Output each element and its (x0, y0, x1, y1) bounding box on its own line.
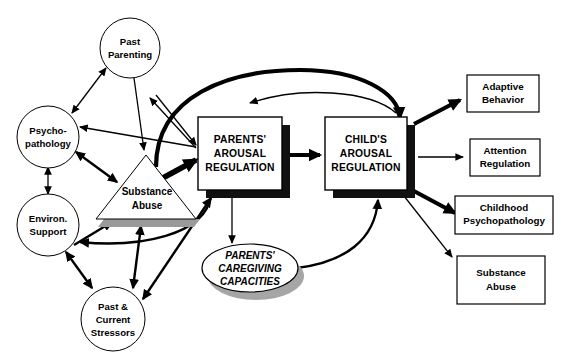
substance-abuse-outcome-label-line2: Abuse (486, 281, 516, 292)
childhood-psychopathology-label-line2: Psychopathology (463, 215, 545, 226)
adaptive-behavior-label-line1: Adaptive (482, 81, 524, 92)
parents-caregiving-capacities-label-line1: PARENTS' (225, 250, 275, 261)
parents-caregiving-capacities-label-line3: CAPACITIES (220, 276, 280, 287)
edge-stressors-substance-abuse (133, 226, 141, 288)
childhood-psychopathology-label-line1: Childhood (480, 202, 528, 213)
node-parents-arousal-regulation[interactable]: PARENTS' AROUSAL REGULATION (198, 117, 290, 198)
adaptive-behavior-label-line2: Behavior (482, 94, 524, 105)
parents-arousal-regulation-label-line3: REGULATION (205, 162, 274, 173)
node-childhood-psychopathology[interactable]: Childhood Psychopathology (455, 196, 553, 234)
edge-child-arousal-to-substance-abuse-outcome (404, 196, 452, 257)
environ-support-label-line1: Environ. (29, 213, 67, 224)
edge-child-arousal-to-childhood-psychopathology (412, 190, 455, 213)
node-psychopathology[interactable]: Psycho- pathology (17, 106, 79, 168)
node-parents-caregiving-capacities[interactable]: PARENTS' CAREGIVING CAPACITIES (202, 244, 304, 300)
edge-psychopathology-substance-abuse (76, 152, 117, 182)
environ-support-label-line2: Support (30, 226, 68, 237)
parents-arousal-regulation-label-line1: PARENTS' (214, 134, 267, 145)
edge-past-parenting-substance-abuse (134, 78, 144, 150)
node-past-parenting[interactable]: Past Parenting (100, 18, 160, 78)
node-past-current-stressors[interactable]: Past & Current Stressors (81, 287, 145, 351)
diagram-svg: Past Parenting Psycho- pathology Environ… (0, 0, 561, 359)
past-current-stressors-label-line2: Current (96, 314, 131, 325)
childs-arousal-regulation-label-line3: REGULATION (331, 162, 400, 173)
attention-regulation-label-line2: Regulation (480, 158, 531, 169)
parents-caregiving-capacities-label-line2: CAREGIVING (218, 263, 282, 274)
parents-arousal-regulation-label-line2: AROUSAL (214, 148, 266, 159)
past-current-stressors-label-line1: Past & (98, 301, 128, 312)
childs-arousal-regulation-label-line2: AROUSAL (340, 148, 392, 159)
substance-abuse-outcome-label-line1: Substance (476, 267, 526, 278)
node-attention-regulation[interactable]: Attention Regulation (470, 139, 540, 176)
node-environ-support[interactable]: Environ. Support (17, 194, 79, 256)
edge-environ-support-stressors (66, 252, 92, 288)
node-adaptive-behavior[interactable]: Adaptive Behavior (467, 75, 539, 112)
past-parenting-label-line1: Past (120, 36, 141, 47)
edge-past-parenting-psychopathology (72, 68, 106, 113)
childs-arousal-regulation-label-line1: CHILD'S (345, 134, 387, 145)
diagram-canvas: Past Parenting Psycho- pathology Environ… (0, 0, 561, 359)
edge-curve-child-feedback-to-parents (250, 93, 396, 113)
substance-abuse-triangle-shadow (98, 219, 200, 227)
psychopathology-label-line2: pathology (25, 138, 71, 149)
node-childs-arousal-regulation[interactable]: CHILD'S AROUSAL REGULATION (325, 117, 415, 198)
past-parenting-label-line2: Parenting (108, 49, 152, 60)
edge-child-arousal-to-adaptive-behavior (414, 100, 460, 124)
psychopathology-label-line1: Psycho- (29, 125, 66, 136)
edge-caregiving-capacities-to-child-arousal (297, 200, 378, 268)
past-current-stressors-label-line3: Stressors (91, 327, 135, 338)
substance-abuse-triangle-label-line1: Substance (122, 186, 173, 197)
attention-regulation-label-line1: Attention (484, 145, 527, 156)
node-substance-abuse-outcome[interactable]: Substance Abuse (457, 256, 545, 304)
substance-abuse-triangle-label-line2: Abuse (132, 200, 163, 211)
